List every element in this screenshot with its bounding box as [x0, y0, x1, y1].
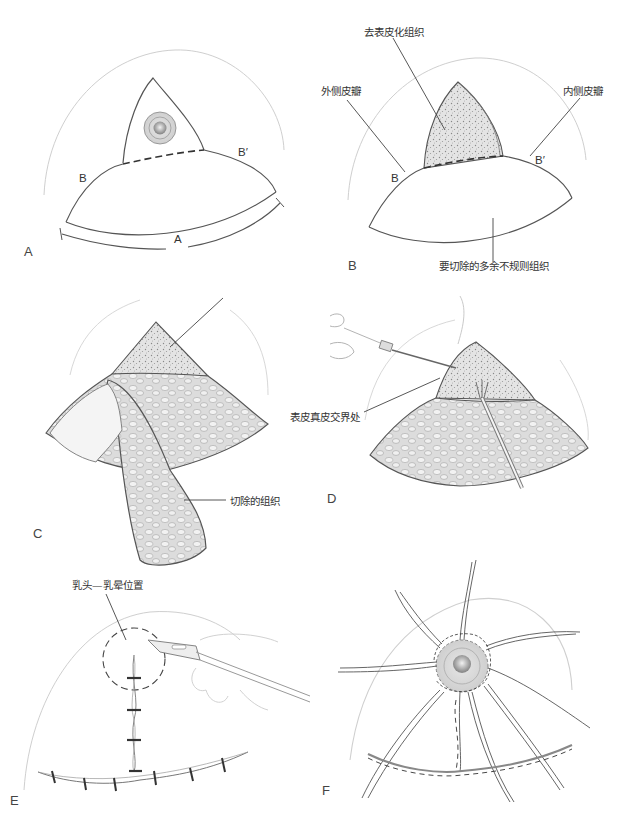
point-label-b: B — [79, 172, 87, 184]
panel-b-drawing — [347, 38, 586, 262]
panel-letter-b: B — [348, 258, 357, 273]
panel-c-drawing — [46, 298, 268, 565]
callout-dermal-epidermal-junction: 表皮真皮交界处 — [290, 409, 360, 424]
panel-a-drawing — [44, 50, 284, 249]
point-label-b-prime: B′ — [535, 154, 545, 166]
arc-label-a: A — [174, 233, 182, 245]
panel-letter-d: D — [327, 491, 336, 506]
callout-excised-tissue: 切除的组织 — [230, 493, 280, 508]
panel-d-drawing — [330, 296, 588, 488]
panel-letter-c: C — [33, 526, 42, 541]
callout-excess-tissue: 要切除的多余不规则组织 — [439, 258, 549, 273]
panel-f-drawing — [338, 560, 590, 802]
panel-letter-f: F — [322, 783, 330, 798]
panel-letter-e: E — [10, 793, 19, 808]
panel-e-drawing — [24, 594, 310, 791]
nipple-areola-icon — [436, 640, 488, 692]
panel-letter-a: A — [24, 244, 33, 259]
callout-deepithelialized-tissue: 去表皮化组织 — [364, 24, 424, 39]
callout-medial-flap: 内侧皮瓣 — [563, 83, 603, 98]
point-label-b-prime: B′ — [238, 146, 248, 158]
callout-nipple-areola-position: 乳头—乳晕位置 — [72, 577, 143, 592]
nipple-areola-icon — [144, 112, 176, 144]
callout-lateral-flap: 外侧皮瓣 — [321, 83, 361, 98]
surgical-illustration-figure: A B C D E F B B′ A B B′ 去表皮化组织 外侧皮瓣 内侧皮瓣… — [0, 0, 619, 820]
point-label-b: B — [391, 172, 399, 184]
